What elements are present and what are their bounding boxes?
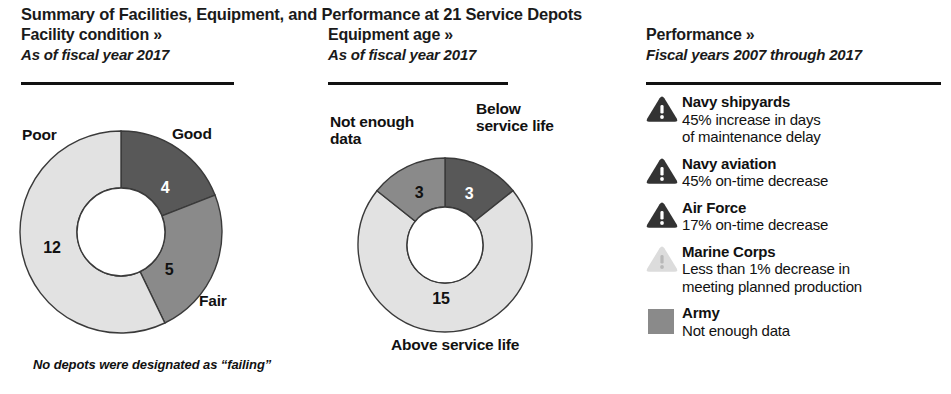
equipment-column-header: Equipment age » As of fiscal year 2017: [328, 25, 476, 64]
warning-triangle-icon: [646, 201, 678, 230]
equipment-label-below-service-life: Below service life: [476, 100, 554, 134]
facility-column-header: Facility condition » As of fiscal year 2…: [21, 25, 169, 64]
facility-label-fair: Fair: [199, 292, 227, 309]
equipment-header-rule: [328, 82, 508, 85]
facility-label-good: Good: [172, 125, 212, 142]
facility-column-title: Facility condition »: [21, 25, 169, 44]
performance-item-desc-line1: Less than 1% decrease in: [682, 260, 946, 278]
performance-list-item: Air Force17% on-time decrease: [646, 199, 946, 234]
equipment-label-not-enough-data-line2: data: [330, 130, 361, 147]
performance-item-name: Army: [682, 304, 946, 322]
performance-list-item: ArmyNot enough data: [646, 304, 946, 339]
facility-slice-value-poor: 12: [43, 239, 60, 257]
performance-item-text: Air Force17% on-time decrease: [680, 199, 946, 234]
performance-item-desc-line1: Not enough data: [682, 322, 946, 340]
facility-label-poor: Poor: [22, 126, 57, 143]
equipment-slice-value-above: 15: [432, 290, 449, 308]
warning-triangle-muted-icon: [646, 245, 678, 274]
performance-item-text: Navy shipyards45% increase in daysof mai…: [680, 93, 946, 146]
facility-footnote: No depots were designated as “failing”: [33, 357, 271, 372]
performance-item-name: Navy shipyards: [682, 93, 946, 111]
equipment-label-above-service-life: Above service life: [391, 336, 519, 353]
performance-item-name: Air Force: [682, 199, 946, 217]
warning-triangle-icon: [646, 157, 678, 186]
exclamation-bar: [660, 211, 663, 220]
equipment-label-not-enough-data: Not enough data: [330, 113, 414, 147]
performance-item-text: Marine CorpsLess than 1% decrease inmeet…: [680, 243, 946, 296]
performance-item-text: Navy aviation45% on-time decrease: [680, 155, 946, 190]
facility-slice-value-fair: 5: [165, 261, 174, 279]
equipment-slice-value-below: 3: [465, 185, 474, 203]
exclamation-bar: [660, 255, 663, 264]
exclamation-bar: [660, 105, 663, 114]
performance-item-name: Navy aviation: [682, 155, 946, 173]
performance-item-icon: [646, 157, 680, 187]
equipment-label-below-line1: Below: [476, 100, 521, 117]
equipment-label-not-enough-data-line1: Not enough: [330, 113, 414, 130]
equipment-age-donut-chart: 3 3 15: [357, 157, 533, 333]
performance-item-text: ArmyNot enough data: [680, 304, 946, 339]
performance-item-desc-line2: meeting planned production: [682, 278, 946, 296]
performance-list-item: Navy shipyards45% increase in daysof mai…: [646, 93, 946, 146]
exclamation-dot: [660, 221, 664, 225]
facility-header-rule: [21, 82, 234, 85]
facility-condition-donut-chart: 4 5 12: [19, 130, 223, 334]
performance-header-rule: [646, 82, 941, 85]
exclamation-dot: [660, 265, 664, 269]
facility-column-subtitle: As of fiscal year 2017: [21, 45, 169, 64]
exclamation-dot: [660, 177, 664, 181]
equipment-slice-value-notenough: 3: [415, 184, 424, 202]
performance-item-icon: [646, 201, 680, 231]
equipment-column-title: Equipment age »: [328, 25, 476, 44]
performance-column-subtitle: Fiscal years 2007 through 2017: [646, 45, 862, 64]
performance-item-name: Marine Corps: [682, 243, 946, 261]
performance-item-desc-line1: 45% on-time decrease: [682, 172, 946, 190]
facility-donut-svg: [19, 130, 223, 334]
performance-item-icon: [646, 95, 680, 125]
facility-donut-hole: [77, 188, 165, 276]
page-title: Summary of Facilities, Equipment, and Pe…: [21, 5, 582, 24]
warning-triangle-icon: [646, 95, 678, 124]
performance-column-header: Performance » Fiscal years 2007 through …: [646, 25, 862, 64]
performance-list: Navy shipyards45% increase in daysof mai…: [646, 93, 946, 348]
equipment-column-subtitle: As of fiscal year 2017: [328, 45, 476, 64]
performance-item-desc-line2: of maintenance delay: [682, 128, 946, 146]
facility-slice-value-good: 4: [161, 179, 170, 197]
equipment-donut-hole: [407, 207, 483, 283]
performance-list-item: Navy aviation45% on-time decrease: [646, 155, 946, 190]
exclamation-bar: [660, 167, 663, 176]
performance-item-desc-line1: 45% increase in days: [682, 111, 946, 129]
performance-item-icon: [646, 306, 680, 336]
equipment-label-below-line2: service life: [476, 117, 554, 134]
performance-item-icon: [646, 245, 680, 275]
performance-list-item: Marine CorpsLess than 1% decrease inmeet…: [646, 243, 946, 296]
performance-item-desc-line1: 17% on-time decrease: [682, 216, 946, 234]
performance-column-title: Performance »: [646, 25, 862, 44]
exclamation-dot: [660, 115, 664, 119]
gray-square-swatch-icon: [648, 309, 674, 334]
